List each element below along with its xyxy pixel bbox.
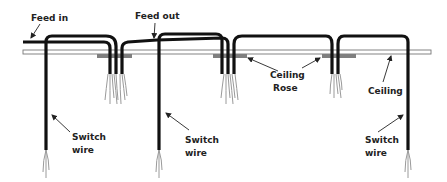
switch-wire-2-label-line2: wire bbox=[185, 148, 207, 158]
switch-wire-2-ends bbox=[156, 150, 162, 178]
loop-in-wiring-diagram: Feed in Feed out Ceiling Rose Ceiling Sw… bbox=[0, 0, 447, 182]
ceiling-rose-label-line1: Ceiling bbox=[270, 70, 305, 80]
switch-wire-2-label-line1: Switch bbox=[185, 135, 219, 145]
feed-out-cable-1 bbox=[122, 38, 228, 74]
rose-1-cores bbox=[105, 74, 127, 104]
switch-wire-3-label-line2: wire bbox=[365, 148, 387, 158]
feed-out-label: Feed out bbox=[135, 11, 180, 21]
ceiling-rose-label-line2: Rose bbox=[273, 83, 298, 93]
switch-wire-1-label-line1: Switch bbox=[72, 132, 106, 142]
feed-in-label: Feed in bbox=[31, 13, 68, 23]
ceiling-rose-arrow-2 bbox=[302, 58, 320, 68]
switch-wire-1-ends bbox=[43, 150, 49, 178]
switch-wire-1-label-line2: wire bbox=[72, 145, 94, 155]
ceiling-label: Ceiling bbox=[368, 86, 403, 96]
switch-wire-3-ends bbox=[405, 150, 411, 178]
ceiling-rose-2 bbox=[213, 54, 247, 58]
rose-2-cores bbox=[221, 74, 238, 104]
rose-3-cores bbox=[330, 74, 342, 98]
feed-in-cable bbox=[23, 42, 110, 74]
switch-wire-3-arrow bbox=[378, 115, 403, 132]
switch-wire-2-arrow bbox=[166, 113, 189, 130]
switch-wire-3-label-line1: Switch bbox=[365, 135, 399, 145]
switch-wire-1-arrow bbox=[52, 115, 70, 132]
ceiling-arrow bbox=[383, 56, 391, 82]
feed-out-arrow bbox=[154, 23, 155, 38]
feed-in-arrow bbox=[31, 24, 40, 38]
feed-out-cable-2 bbox=[234, 36, 332, 74]
